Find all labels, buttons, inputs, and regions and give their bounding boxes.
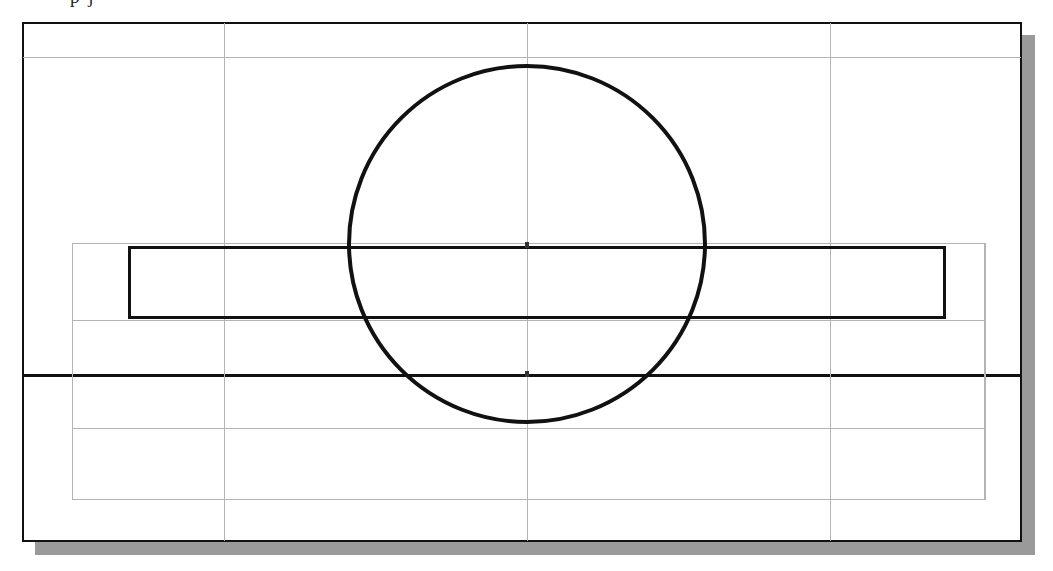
- grid-h-top: [23, 57, 1021, 58]
- clipped-header-text: p j: [70, 0, 96, 8]
- drawing-page: p j: [0, 0, 1053, 571]
- plate-profile-rectangle: [128, 246, 946, 319]
- center-mark-primary: [525, 371, 529, 377]
- grid-v-rect-right: [985, 243, 986, 500]
- center-mark-secondary: [525, 242, 529, 248]
